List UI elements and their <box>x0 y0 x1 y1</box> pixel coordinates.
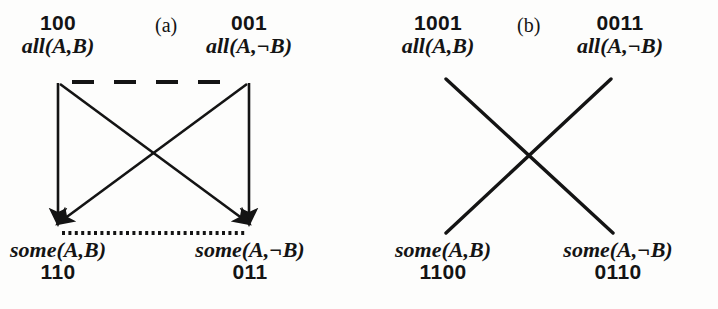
node-a-top-right: 001 all(A,¬B) <box>186 12 312 57</box>
node-b-top-right: 0011 all(A,¬B) <box>557 12 683 57</box>
node-a-top-right-code: 001 <box>186 12 312 34</box>
square-of-opposition-figure: (a) 100 all(A,B) 001 all(A,¬B) some(A,B)… <box>0 0 718 309</box>
node-b-top-right-formula: all(A,¬B) <box>557 34 683 57</box>
panel-label-a: (a) <box>155 14 177 37</box>
node-a-bottom-left: some(A,B) 110 <box>0 238 122 283</box>
node-a-bottom-left-code: 110 <box>0 261 122 283</box>
node-a-top-left-formula: all(A,B) <box>0 34 116 57</box>
node-b-top-left-code: 1001 <box>380 12 496 34</box>
node-b-bottom-right: some(A,¬B) 0110 <box>550 238 686 283</box>
node-a-bottom-right-code: 011 <box>182 261 318 283</box>
node-a-bottom-right-formula: some(A,¬B) <box>182 238 318 261</box>
node-a-top-right-formula: all(A,¬B) <box>186 34 312 57</box>
node-a-bottom-left-formula: some(A,B) <box>0 238 122 261</box>
node-b-bottom-left: some(A,B) 1100 <box>379 238 507 283</box>
node-a-top-left: 100 all(A,B) <box>0 12 116 57</box>
node-b-bottom-left-code: 1100 <box>379 261 507 283</box>
panel-label-b: (b) <box>517 14 540 37</box>
node-b-bottom-right-formula: some(A,¬B) <box>550 238 686 261</box>
node-b-top-left-formula: all(A,B) <box>380 34 496 57</box>
node-b-bottom-right-code: 0110 <box>550 261 686 283</box>
node-a-top-left-code: 100 <box>0 12 116 34</box>
node-b-top-right-code: 0011 <box>557 12 683 34</box>
node-a-bottom-right: some(A,¬B) 011 <box>182 238 318 283</box>
node-b-top-left: 1001 all(A,B) <box>380 12 496 57</box>
node-b-bottom-left-formula: some(A,B) <box>379 238 507 261</box>
